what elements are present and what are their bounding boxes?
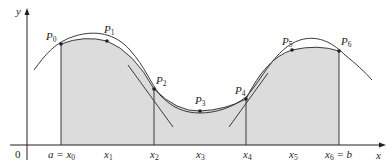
x-axis-label: x bbox=[375, 149, 381, 161]
x-tick-labels: a = x0 x1 x2 x3 x4 x5 x6 = b bbox=[48, 148, 353, 162]
svg-text:x1: x1 bbox=[103, 148, 113, 162]
svg-text:P4: P4 bbox=[234, 84, 246, 98]
svg-text:x3: x3 bbox=[195, 148, 205, 162]
origin-label: 0 bbox=[15, 148, 21, 160]
point-p1 bbox=[105, 39, 109, 43]
svg-text:P0: P0 bbox=[45, 30, 57, 44]
svg-text:a = x0: a = x0 bbox=[48, 148, 75, 162]
svg-text:P3: P3 bbox=[194, 94, 206, 108]
point-p3 bbox=[198, 109, 202, 113]
y-axis-label: y bbox=[15, 5, 21, 17]
svg-text:P1: P1 bbox=[103, 23, 115, 37]
point-p2 bbox=[152, 87, 156, 91]
simpson-rule-figure: y x 0 a = x0 x1 x2 x3 x4 x5 x6 = b P0 P1 bbox=[0, 0, 392, 166]
y-axis-arrow-icon bbox=[25, 8, 30, 15]
svg-text:x4: x4 bbox=[242, 148, 252, 162]
svg-text:x6 = b: x6 = b bbox=[324, 148, 353, 162]
svg-text:P2: P2 bbox=[155, 74, 167, 88]
svg-text:x2: x2 bbox=[149, 148, 159, 162]
svg-text:x5: x5 bbox=[288, 148, 298, 162]
point-p6 bbox=[337, 49, 341, 53]
x-axis-arrow-icon bbox=[379, 143, 386, 148]
point-p0 bbox=[59, 42, 63, 46]
svg-text:P6: P6 bbox=[340, 35, 352, 49]
svg-text:P5: P5 bbox=[281, 35, 293, 49]
shaded-area bbox=[61, 39, 339, 145]
